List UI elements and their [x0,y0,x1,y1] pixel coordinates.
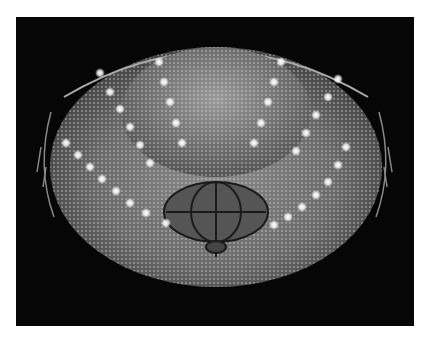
chandelier-photo [16,17,414,326]
chandelier-illustration [16,17,414,326]
